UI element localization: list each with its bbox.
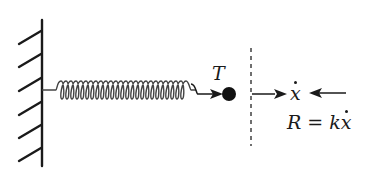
velocity-label: x <box>290 84 301 103</box>
mass-point <box>222 87 236 101</box>
resistance-equation: R = kx <box>287 113 352 132</box>
velocity-arrow <box>252 89 287 99</box>
wall <box>19 20 42 166</box>
mass-label: T <box>212 64 225 83</box>
resistance-arrow <box>309 88 346 98</box>
tension-arrow <box>191 84 223 99</box>
x-dot-symbol: x <box>290 84 301 103</box>
spring <box>42 81 196 99</box>
spring-damper-diagram: T x R = kx <box>0 0 385 178</box>
diagram-graphics <box>0 0 385 178</box>
x-dot-symbol: x <box>341 113 352 132</box>
